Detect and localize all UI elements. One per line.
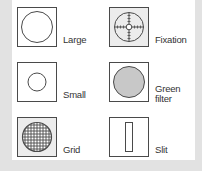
grid-aperture-box	[17, 117, 57, 157]
filled-circle-icon	[110, 63, 148, 101]
legend-item-green-filter: Green filter	[109, 62, 201, 104]
label-green-filter-line2: filter	[155, 94, 172, 104]
legend-item-fixation: Fixation	[109, 7, 201, 49]
label-small: Small	[63, 90, 86, 100]
slit-aperture-box	[109, 117, 149, 157]
legend-item-grid: Grid	[17, 117, 109, 159]
small-aperture-box	[17, 62, 57, 102]
legend-item-small: Small	[17, 62, 109, 104]
legend-item-large: Large	[17, 7, 109, 49]
label-large: Large	[63, 35, 86, 45]
label-slit: Slit	[155, 145, 167, 155]
vertical-slit-icon	[110, 118, 148, 156]
large-aperture-box	[17, 7, 57, 47]
large-circle-icon	[18, 8, 56, 46]
label-grid: Grid	[63, 145, 80, 155]
fixation-aperture-box	[109, 7, 149, 47]
legend-item-slit: Slit	[109, 117, 201, 159]
small-circle-icon	[18, 63, 56, 101]
fixation-crosshair-icon	[110, 8, 148, 46]
label-fixation: Fixation	[155, 35, 187, 45]
grid-circle-icon	[18, 118, 56, 156]
green-filter-aperture-box	[109, 62, 149, 102]
aperture-legend-panel: Large	[12, 0, 195, 160]
